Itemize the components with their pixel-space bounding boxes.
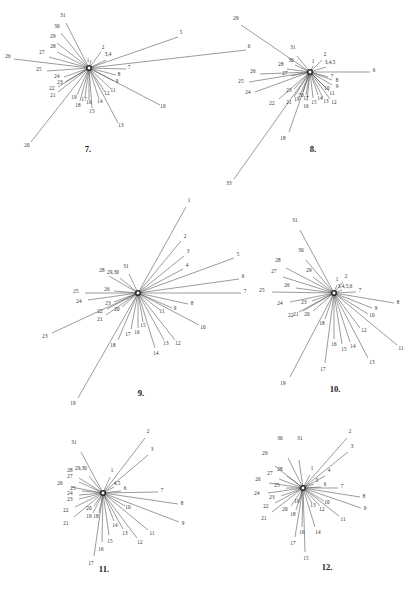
ray-label: 14: [97, 98, 103, 104]
ray-label: 5: [316, 477, 319, 483]
ray-label: 3,4,5,6: [338, 283, 353, 289]
ray-label: 16: [299, 529, 305, 535]
ray-label: 26: [5, 53, 11, 59]
ray-label: 25: [36, 66, 42, 72]
ray-label: 19: [280, 380, 286, 386]
ray-line: [66, 23, 89, 68]
ray-line: [306, 260, 334, 293]
ray-label: 27: [39, 49, 45, 55]
figure-sheet: 123,456789101112131415161718192021222324…: [0, 0, 418, 589]
ray-label: 27: [67, 473, 73, 479]
ray-label: 18: [93, 513, 99, 519]
ray-label: 13: [369, 359, 375, 365]
ray-label: 24: [76, 298, 82, 304]
ray-line: [138, 293, 172, 308]
figure-caption: 11.: [99, 564, 109, 574]
ray-label: 26: [104, 286, 110, 292]
ray-label: 25: [274, 482, 280, 488]
ray-label: 9: [174, 305, 177, 311]
ray-label: 8: [118, 71, 121, 77]
ray-line: [57, 52, 89, 68]
ray-label: 6: [373, 67, 376, 73]
ray-label: 12: [331, 99, 337, 105]
ray-label: 15: [140, 322, 146, 328]
ray-label: 26: [250, 68, 256, 74]
ray-label: 11: [340, 516, 345, 522]
ray-label: 7: [359, 287, 362, 293]
ray-label: 9: [375, 305, 378, 311]
ray-line: [325, 293, 334, 363]
ray-label: 17: [88, 560, 94, 566]
ray-label: 30: [288, 57, 294, 63]
ray-label: 15: [311, 99, 317, 105]
ray-label: 17: [125, 331, 131, 337]
ray-label: 23: [105, 300, 111, 306]
figure-caption: 8.: [310, 144, 316, 154]
ray-label: 29: [262, 450, 268, 456]
ray-label: 1: [312, 58, 315, 64]
ray-label: 2: [102, 44, 105, 50]
star-diagrams-canvas: 123,456789101112131415161718192021222324…: [0, 0, 418, 589]
ray-label: 13: [118, 122, 124, 128]
ray-label: 2: [349, 428, 352, 434]
ray-label: 7: [331, 73, 334, 79]
ray-line: [57, 43, 89, 68]
ray-line: [303, 488, 360, 497]
ray-label: 2: [345, 273, 348, 279]
ray-label: 12: [104, 90, 110, 96]
ray-label: 20: [86, 505, 92, 511]
figure-caption: 7.: [85, 144, 91, 154]
ray-label: 16: [303, 103, 309, 109]
ray-label: 1: [87, 57, 90, 63]
ray-label: 16: [134, 329, 140, 335]
ray-label: 3: [351, 443, 354, 449]
ray-line: [109, 276, 138, 293]
ray-label: 13: [323, 98, 329, 104]
ray-label: 6: [248, 43, 251, 49]
ray-label: 10: [369, 312, 375, 318]
ray-label: 19: [70, 400, 76, 406]
ray-label: 23: [286, 87, 292, 93]
ray-label: 31: [297, 435, 303, 441]
ray-label: 2: [147, 428, 150, 434]
ray-label: 6: [242, 273, 245, 279]
ray-label: 17: [290, 540, 296, 546]
ray-label: 22: [288, 312, 294, 318]
figure-caption: 12.: [322, 562, 333, 572]
ray-label: 6: [124, 485, 127, 491]
ray-label: 24: [254, 490, 260, 496]
ray-label: 8: [191, 300, 194, 306]
ray-label: 13: [163, 340, 169, 346]
ray-label: 14: [315, 529, 321, 535]
ray-label: 18: [319, 320, 325, 326]
ray-label: 25: [70, 485, 76, 491]
ray-label: 30: [298, 247, 304, 253]
ray-label: 1: [336, 276, 339, 282]
ray-line: [138, 293, 155, 348]
ray-label: 22: [263, 503, 269, 509]
ray-label: 4,5: [114, 480, 121, 486]
ray-label: 20: [114, 306, 120, 312]
star-figure: 1234567891011121314151617181920212223242…: [42, 197, 246, 406]
ray-label: 23: [42, 333, 48, 339]
ray-label: 11: [329, 90, 334, 96]
ray-label: 28: [275, 257, 281, 263]
ray-label: 8: [397, 299, 400, 305]
ray-label: 17: [303, 95, 309, 101]
ray-label: 4: [328, 467, 331, 473]
ray-label: 28: [278, 61, 284, 67]
ray-label: 8: [181, 500, 184, 506]
ray-label: 10: [200, 324, 206, 330]
ray-label: 15: [303, 555, 309, 561]
ray-label: 16: [98, 546, 104, 552]
ray-label: 23: [67, 496, 73, 502]
ray-label: 5: [237, 251, 240, 257]
ray-label: 19: [71, 94, 77, 100]
ray-label: 26: [284, 282, 290, 288]
ray-label: 14: [112, 522, 118, 528]
ray-label: 2: [184, 233, 187, 239]
ray-label: 27: [267, 470, 273, 476]
ray-label: 23: [57, 79, 63, 85]
ray-line: [89, 50, 246, 68]
hub-core: [332, 291, 335, 294]
